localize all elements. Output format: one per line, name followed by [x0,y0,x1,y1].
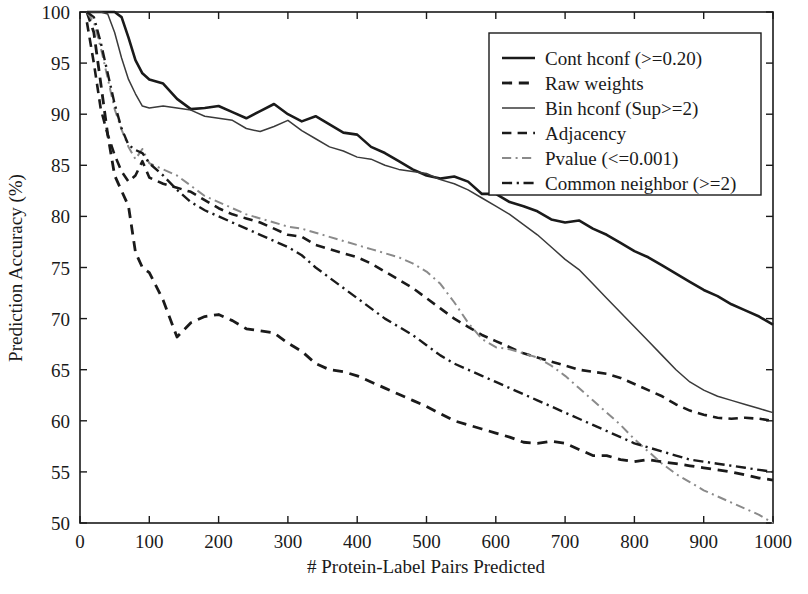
x-tick-label: 300 [274,531,303,552]
x-tick-label: 900 [689,531,718,552]
y-axis-title: Prediction Accuracy (%) [5,174,27,362]
x-tick-label: 400 [343,531,372,552]
y-tick-label: 95 [51,53,70,74]
y-tick-label: 100 [42,2,71,23]
legend-label-0: Cont hconf (>=0.20) [545,48,702,70]
x-tick-label: 1000 [754,531,792,552]
legend-label-3: Adjacency [545,123,627,144]
legend-label-5: Common neighbor (>=2) [545,173,736,195]
y-tick-label: 90 [51,104,70,125]
y-tick-label: 65 [51,360,70,381]
legend-label-1: Raw weights [545,73,644,94]
y-tick-label: 60 [51,411,70,432]
y-tick-label: 80 [51,206,70,227]
y-axis-tick-labels: 50556065707580859095100 [42,2,71,534]
y-tick-label: 70 [51,309,70,330]
y-tick-label: 50 [51,513,70,534]
x-tick-label: 800 [620,531,649,552]
y-tick-label: 85 [51,155,70,176]
x-tick-label: 100 [135,531,164,552]
x-tick-label: 0 [75,531,85,552]
chart-legend: Cont hconf (>=0.20)Raw weightsBin hconf … [489,33,761,195]
x-axis-title: # Protein-Label Pairs Predicted [307,556,545,577]
legend-label-2: Bin hconf (Sup>=2) [545,98,698,120]
chart-svg: 01002003004005006007008009001000 5055606… [0,0,808,594]
y-tick-label: 75 [51,258,70,279]
x-tick-label: 600 [482,531,511,552]
chart-figure: 01002003004005006007008009001000 5055606… [0,0,808,594]
y-tick-label: 55 [51,462,70,483]
x-tick-label: 700 [551,531,580,552]
x-tick-label: 500 [412,531,441,552]
x-axis-tick-labels: 01002003004005006007008009001000 [75,531,792,552]
legend-label-4: Pvalue (<=0.001) [545,148,678,170]
x-tick-label: 200 [204,531,233,552]
